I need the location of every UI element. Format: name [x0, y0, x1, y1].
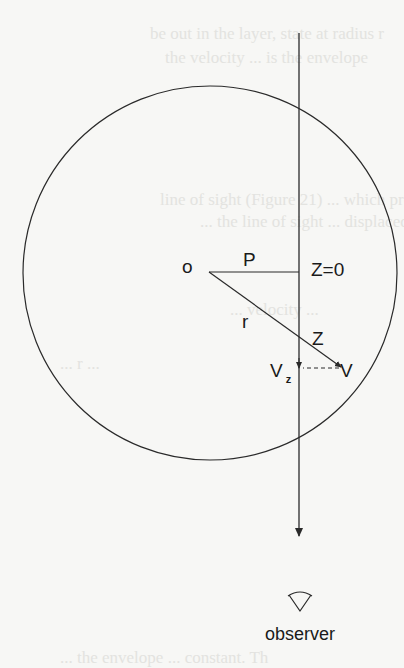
observer-label: observer	[265, 624, 335, 645]
radius-label: r	[242, 312, 248, 331]
impact-parameter-label: P	[243, 250, 256, 269]
vz-label: Vz	[270, 361, 291, 380]
eye-icon	[288, 592, 312, 611]
vz-main: V	[270, 360, 283, 381]
origin-label: o	[182, 257, 193, 276]
diagram-canvas	[0, 0, 404, 668]
velocity-label: V	[340, 361, 353, 380]
z-label: Z	[312, 329, 324, 348]
z-zero-label: Z=0	[311, 260, 344, 279]
radius-vector-arrow	[209, 272, 341, 367]
vz-subscript: z	[286, 373, 292, 385]
